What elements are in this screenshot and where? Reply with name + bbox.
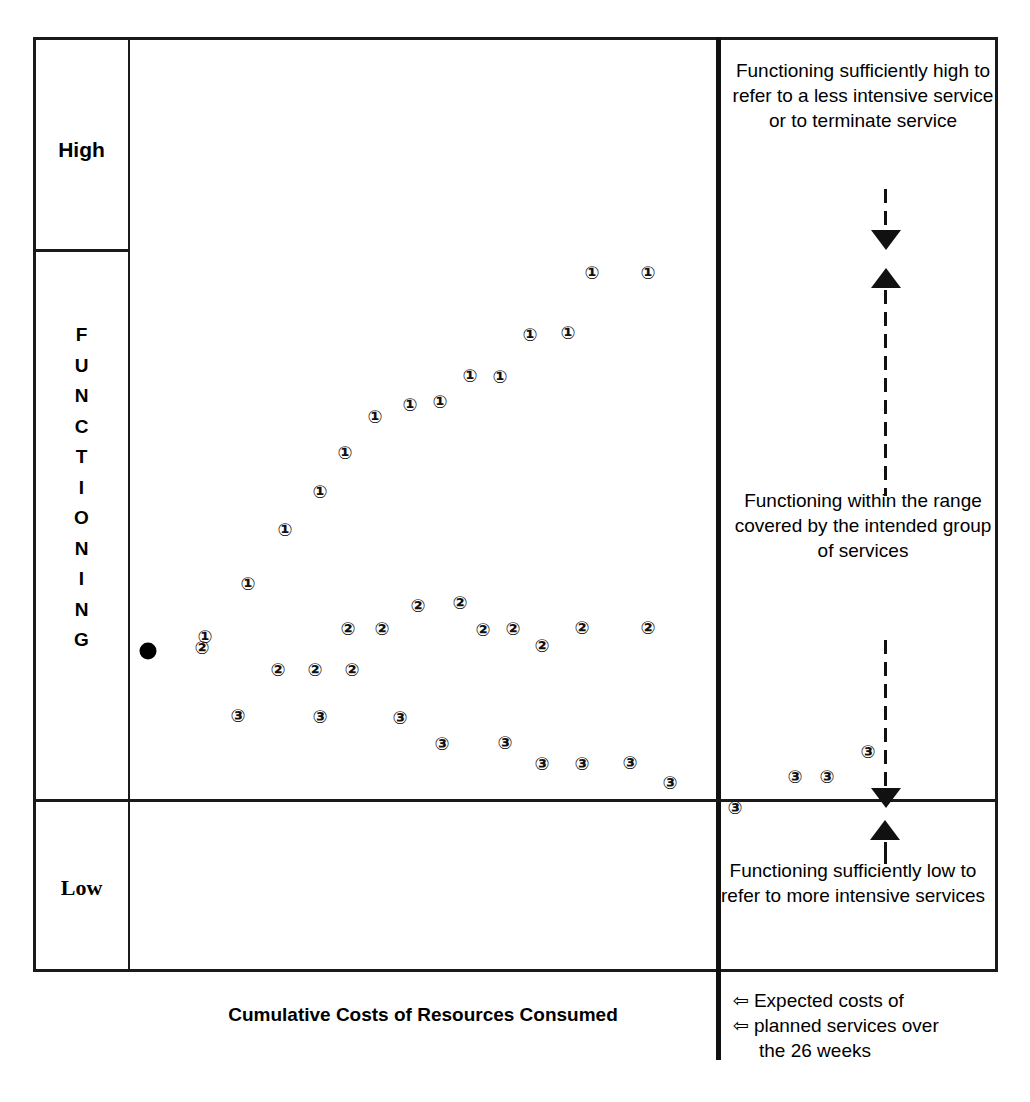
expected-costs-text-3: the 26 weeks [759,1040,871,1061]
arrow-down-low-icon [871,788,901,808]
y-axis-letter-7: N [35,534,128,565]
y-axis-letter-1: U [35,351,128,382]
data-point-3: ③ [787,768,802,786]
data-point-1: ① [367,408,382,426]
y-band-label-low: Low [35,875,128,901]
y-axis-letter-2: N [35,381,128,412]
left-arrow-icon-1: ⇦ [733,988,749,1013]
y-axis-title-functioning: F U N C T I O N I N G [35,320,128,656]
expected-costs-note: ⇦Expected costs of ⇦planned services ove… [733,988,1013,1063]
y-axis-letter-9: N [35,595,128,626]
data-point-3: ③ [312,708,327,726]
expected-costs-text-1: Expected costs of [754,990,904,1011]
data-point-2: ② [270,661,285,679]
expected-costs-text-2: planned services over [754,1015,939,1036]
arrow-up-low-icon [870,820,900,840]
data-point-start [140,643,157,660]
data-point-2: ② [505,620,520,638]
data-point-1: ① [522,326,537,344]
scatter-plot-area: ①①①①①①①①①①①①①①②②②②②②②②②②②②②③③③③③③③③③ [130,40,716,799]
expected-costs-line-2: ⇦planned services over [733,1013,1013,1038]
y-band-label-high: High [35,138,128,162]
annotation-high: Functioning sufficiently high to refer t… [731,58,995,133]
data-point-1: ① [337,444,352,462]
annotation-range: Functioning within the range covered by … [731,488,995,563]
data-point-1: ① [402,396,417,414]
data-point-2: ② [307,661,322,679]
spine-segment-upper-range [884,290,887,496]
data-point-1: ① [492,368,507,386]
data-point-2: ② [475,621,490,639]
data-point-3: ③ [392,709,407,727]
data-point-1: ① [312,483,327,501]
y-axis-letter-6: O [35,503,128,534]
low-band-divider [33,799,998,802]
y-axis-letter-10: G [35,625,128,656]
data-point-3: ③ [727,799,742,817]
spine-segment-top [884,189,887,234]
data-point-3: ③ [574,755,589,773]
data-point-3: ③ [662,774,677,792]
data-point-1: ① [277,521,292,539]
y-axis-letter-3: C [35,412,128,443]
data-point-1: ① [240,575,255,593]
high-band-divider [33,249,130,252]
data-point-2: ② [534,637,549,655]
data-point-3: ③ [434,735,449,753]
service-range-panel: Functioning sufficiently high to refer t… [721,40,995,799]
data-point-2: ② [574,619,589,637]
expected-costs-line-1: ⇦Expected costs of [733,988,1013,1013]
data-point-3: ③ [860,743,875,761]
expected-costs-line-3: the 26 weeks [733,1038,1013,1063]
arrow-down-high-icon [871,230,901,250]
data-point-2: ② [640,619,655,637]
spine-segment-lower-range [884,640,887,792]
data-point-1: ① [462,367,477,385]
arrow-up-range-icon [871,268,901,288]
data-point-2: ② [410,597,425,615]
chart-figure: High F U N C T I O N I N G Low ①①①①①①①①①… [0,0,1030,1102]
data-point-3: ③ [497,734,512,752]
x-axis-title: Cumulative Costs of Resources Consumed [130,1004,716,1026]
data-point-1: ① [432,393,447,411]
data-point-2: ② [194,639,209,657]
data-point-3: ③ [230,707,245,725]
data-point-1: ① [560,324,575,342]
data-point-2: ② [452,594,467,612]
data-point-2: ② [374,620,389,638]
data-point-3: ③ [534,755,549,773]
data-point-1: ① [584,264,599,282]
data-point-2: ② [344,661,359,679]
annotation-low: Functioning sufficiently low to refer to… [721,858,985,908]
data-point-1: ① [640,264,655,282]
data-point-3: ③ [622,754,637,772]
data-point-3: ③ [819,768,834,786]
data-point-2: ② [340,620,355,638]
y-axis-letter-5: I [35,473,128,504]
y-axis-letter-4: T [35,442,128,473]
y-axis-letter-8: I [35,564,128,595]
y-axis-letter-0: F [35,320,128,351]
left-arrow-icon-2: ⇦ [733,1013,749,1038]
